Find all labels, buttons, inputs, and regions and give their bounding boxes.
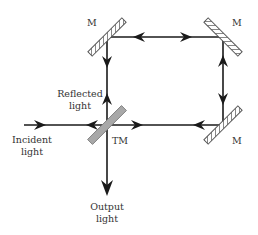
label-beam-splitter: TM [112,135,128,147]
reflected-line1: Reflected [56,88,104,100]
label-reflected-light: Reflected light [56,88,104,112]
label-incident-light: Incident light [8,134,56,158]
incident-line1: Incident [8,134,56,146]
incident-line2: light [8,146,56,158]
label-mirror-bottom-right: M [232,135,242,147]
interferometer-diagram: M M M TM Reflected light Incident light … [0,0,258,235]
reflected-line2: light [56,100,104,112]
output-line1: Output [83,201,131,213]
label-mirror-top-left: M [87,17,97,29]
output-line2: light [83,213,131,225]
arrowheads [34,32,228,196]
label-output-light: Output light [83,201,131,225]
diagram-canvas [0,0,258,235]
label-mirror-top-right: M [232,17,242,29]
